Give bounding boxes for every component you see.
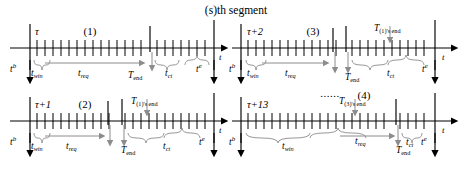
t-win-label: twin (31, 68, 43, 79)
axis-label: t (442, 52, 445, 62)
segment-index-label: (3) (307, 25, 320, 38)
t-win-brace (34, 60, 50, 70)
t-ct-label: tct (163, 141, 170, 152)
t-req-label: treq (355, 136, 366, 147)
segment-start-label: τ (35, 26, 40, 37)
t-end-bound-label: te (199, 135, 205, 147)
t-ct-label: tct (165, 68, 172, 79)
segment-start-label: τ+1 (35, 99, 51, 110)
t-win-label: twin (31, 141, 43, 152)
panel-2: τ+1 (2) t T(1)'s end tb twin treq Tend t… (10, 93, 222, 156)
T1-end-label: T(1)'s end (131, 96, 158, 108)
t-begin-label: tb (10, 62, 17, 74)
panel-4: τ+13 ...... (4) t T(3)'s end tb twin tre… (229, 87, 452, 156)
T1-end-label: T(1)'s end (374, 23, 401, 35)
figure-title: (s)th segment (205, 4, 268, 17)
ellipsis-label: ...... (320, 87, 340, 99)
segment-index-label: (2) (79, 98, 92, 111)
timeline-diagram: (s)th segment (0, 0, 473, 171)
axis-label: t (219, 125, 222, 135)
t-req-label: treq (78, 68, 89, 79)
T-end-label: Tend (121, 145, 136, 156)
axis-label: t (442, 125, 445, 135)
t-win-brace (34, 133, 50, 143)
t-end-bound-label: te (196, 62, 202, 74)
t-win-label: twin (247, 68, 259, 79)
t-ct-label: tct (387, 68, 394, 79)
t-req-label: treq (285, 68, 296, 79)
segment-index-label: (1) (84, 25, 97, 38)
t-begin-label: tb (229, 135, 236, 147)
segment-start-label: τ+13 (247, 99, 268, 110)
t-win-brace-left (246, 133, 310, 143)
t-ct-brace-right (388, 55, 424, 65)
T-end-label: Tend (345, 72, 360, 83)
panel-3: τ+2 (3) t T(1)'s end tb twin treq Tend t… (229, 20, 452, 83)
t-end-bound-label: te (422, 62, 428, 74)
t-ct-brace-left (128, 133, 164, 143)
t-ct-brace-right (164, 128, 200, 138)
t-begin-label: tb (10, 135, 17, 147)
t-req-label: treq (66, 141, 77, 152)
t-begin-label: tb (229, 62, 236, 74)
t-end-bound-label: te (421, 135, 427, 147)
T-end-label: Tend (128, 70, 143, 81)
t-ct-brace-left (352, 60, 388, 70)
segment-start-label: τ+2 (247, 26, 264, 37)
t-win-label: twin (282, 141, 294, 152)
figure-canvas: (s)th segment (0, 0, 473, 171)
axis-label: t (219, 52, 222, 62)
panel-1: τ (1) t tb twin treq Tend tct te (10, 20, 222, 81)
